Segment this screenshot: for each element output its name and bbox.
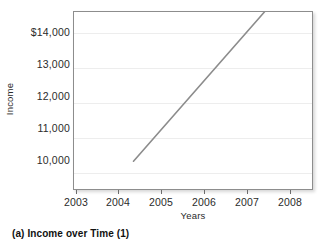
x-tick-label-2005: 2005	[139, 196, 183, 208]
x-axis-title: Years	[181, 210, 206, 221]
x-tick-2006	[204, 190, 205, 194]
x-tick-2007	[247, 190, 248, 194]
x-tick-2003	[76, 190, 77, 194]
x-tick-label-2007: 2007	[225, 196, 269, 208]
y-tick-label-13000: 13,000	[4, 58, 70, 70]
x-tick-label-2003: 2003	[54, 196, 98, 208]
income-trend-line	[134, 12, 265, 161]
x-tick-2005	[161, 190, 162, 194]
figure-caption: (a) Income over Time (1)	[12, 228, 129, 239]
data-series-income	[74, 12, 312, 189]
plot-inner	[74, 12, 312, 189]
figure-income-over-time: $14,000 13,000 12,000 11,000 10,000 Inco…	[0, 0, 336, 247]
y-axis: $14,000 13,000 12,000 11,000 10,000	[0, 0, 70, 247]
x-tick-label-2008: 2008	[268, 196, 312, 208]
x-tick-2008	[290, 190, 291, 194]
y-tick-label-10000: 10,000	[4, 154, 70, 166]
x-tick-label-2006: 2006	[182, 196, 226, 208]
y-axis-title: Income	[4, 83, 15, 115]
y-tick-label-14000: $14,000	[4, 26, 70, 38]
x-tick-label-2004: 2004	[96, 196, 140, 208]
plot-area	[73, 11, 313, 190]
x-tick-2004	[118, 190, 119, 194]
y-tick-label-11000: 11,000	[4, 122, 70, 134]
